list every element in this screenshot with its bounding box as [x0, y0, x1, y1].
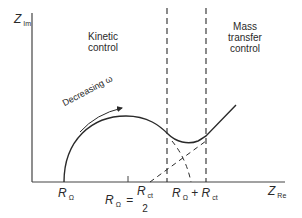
r-omega-subscript: Ω: [69, 194, 74, 201]
x-axis-subscript: Re: [277, 192, 286, 199]
sum-a-symbol: R: [172, 186, 181, 200]
kinetic-line1: Kinetic: [78, 31, 128, 42]
sum-a-subscript: Ω: [183, 194, 188, 201]
fraction-den: 2: [135, 203, 155, 214]
sum-b-symbol: R: [202, 186, 211, 200]
mass-transfer-control-label: Mass transfer control: [220, 21, 270, 54]
fraction-num-subscript: ct: [148, 192, 153, 199]
mid-prefix-subscript: Ω: [116, 201, 121, 208]
kinetic-line2: control: [78, 42, 128, 53]
mid-prefix-symbol: R: [105, 193, 114, 207]
impedance-curve: [64, 105, 236, 182]
mass-line3: control: [220, 43, 270, 54]
sum-label: RΩ + Rct: [172, 188, 218, 203]
sum-b-subscript: ct: [212, 194, 217, 201]
y-axis-subscript: Im: [23, 20, 31, 27]
mass-line1: Mass: [220, 21, 270, 32]
sum-plus: +: [191, 186, 198, 200]
x-axis-label: ZRe: [268, 186, 286, 201]
fraction-num-symbol: R: [137, 184, 146, 198]
x-axis-symbol: Z: [268, 184, 275, 198]
y-axis-symbol: Z: [14, 12, 21, 26]
r-omega-symbol: R: [58, 186, 67, 200]
semicircle-extrapolation: [172, 141, 191, 182]
mass-line2: transfer: [220, 32, 270, 43]
r-omega-label: RΩ: [58, 188, 74, 203]
center-label: RΩ =: [105, 195, 135, 210]
y-axis-label: ZIm: [14, 14, 31, 29]
mid-eq: =: [126, 193, 133, 207]
warburg-extrapolation: [150, 141, 206, 182]
fraction-label: Rct 2: [135, 186, 155, 214]
kinetic-control-label: Kinetic control: [78, 31, 128, 53]
